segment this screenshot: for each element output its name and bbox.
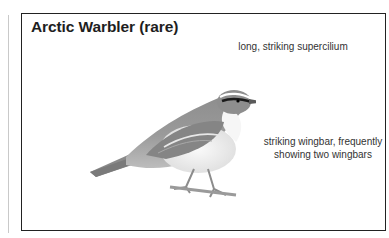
species-title: Arctic Warbler (rare) [31, 18, 178, 36]
bird-illustration [86, 77, 256, 205]
annotation-wingbar: striking wingbar, frequently showing two… [258, 136, 388, 161]
side-rule [8, 15, 9, 233]
species-card: Arctic Warbler (rare) long, striking sup… [21, 13, 386, 231]
annotation-supercilium: long, striking supercilium [223, 41, 363, 54]
